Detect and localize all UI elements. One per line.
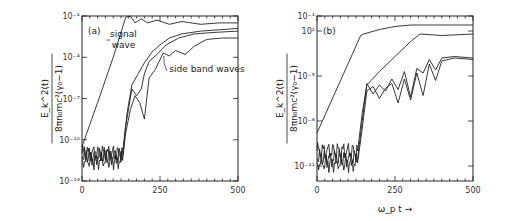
x-tick-label: 500 [230, 186, 245, 195]
y-tick-label: 10⁻¹¹ [294, 162, 315, 171]
figure: 025050010⁻¹10⁻⁴10⁻⁷10⁻¹⁰10⁻¹³(a)E_k^2(t)… [0, 0, 505, 221]
y-axis-label: E_k^2(t)8πn₀mc²(γ₀−1) [275, 54, 299, 144]
y-tick-label: 10⁻¹ [62, 12, 80, 21]
y-tick-label: 10⁻¹⁰ [59, 136, 80, 145]
y-tick-label: 10⁻⁷ [62, 95, 80, 104]
series-line-side-band-1 [317, 34, 473, 159]
y-axis-label: E_k^2(t)8πn₀mc²(γ₀−1) [40, 54, 64, 144]
x-axis-label: ω_p t → [378, 204, 413, 214]
panel-a: 025050010⁻¹10⁻⁴10⁻⁷10⁻¹⁰10⁻¹³(a)E_k^2(t)… [40, 12, 246, 195]
series-line-side-band-3 [317, 58, 473, 173]
series-line-signal-wave [82, 16, 238, 147]
y-tick-label: 10⁻¹³ [59, 177, 80, 186]
x-tick-label: 250 [152, 186, 167, 195]
y-label-denominator: 8πn₀mc²(γ₀−1) [289, 65, 299, 132]
series-line-signal-wave [317, 25, 473, 133]
annotation-pointer [164, 56, 167, 71]
series-line-side-band-2 [82, 31, 238, 165]
y-label-numerator: E_k^2(t) [275, 79, 285, 118]
panel-b: 025050010⁻¹10²10⁻⁵10⁻⁸10⁻¹¹(b)E_k^2(t)8π… [275, 12, 481, 214]
series-line-side-band-2 [317, 57, 473, 168]
y-tick-label: 10⁻⁵ [297, 72, 315, 81]
y-label-denominator: 8πn₀mc²(γ₀−1) [54, 65, 64, 132]
x-tick-label: 500 [465, 186, 480, 195]
series-line-side-band-3 [82, 38, 238, 170]
y-label-numerator: E_k^2(t) [40, 79, 50, 118]
y-tick-label: 10⁻¹ [297, 12, 315, 21]
x-tick-label: 0 [79, 186, 84, 195]
y-tick-label: 10⁻⁸ [297, 117, 315, 126]
annotation-signal-wave: signal [110, 29, 137, 39]
annotation-side-band-waves: side band waves [169, 64, 245, 74]
x-tick-label: 250 [387, 186, 402, 195]
y-tick-label: 10² [302, 27, 315, 36]
y-tick-label: 10⁻⁴ [62, 53, 80, 62]
x-tick-label: 0 [314, 186, 319, 195]
series-line-side-band-1 [82, 28, 238, 161]
panel-label: (a) [88, 26, 101, 36]
annotation-signal-wave-2: wave [112, 40, 136, 50]
panel-label: (b) [323, 26, 336, 36]
